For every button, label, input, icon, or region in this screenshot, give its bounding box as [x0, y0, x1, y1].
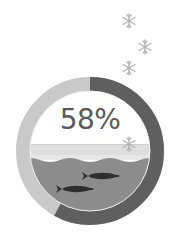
ice-layer: [20, 144, 160, 156]
snowflake-icon: [123, 61, 135, 75]
percent-label: 58%: [50, 103, 130, 136]
snowflake-icon: [139, 40, 151, 54]
snowflake-icon: [123, 14, 135, 28]
